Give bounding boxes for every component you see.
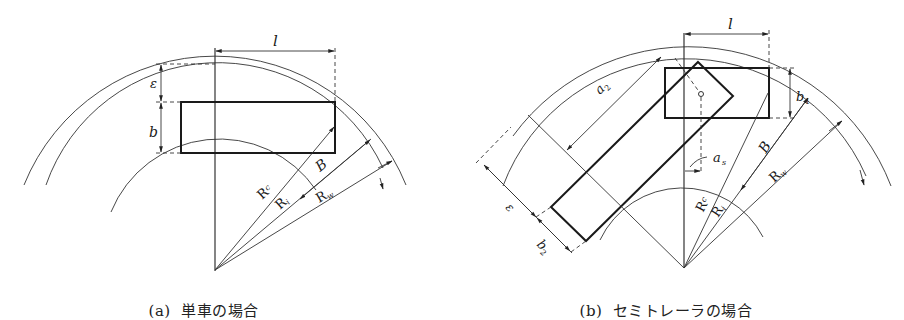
label-l: l — [728, 15, 733, 33]
rotation-arrow — [380, 178, 383, 189]
caption-b-text: セミトレーラの場合 — [613, 302, 753, 320]
radius-rc — [684, 93, 768, 268]
ext-b2-top — [536, 207, 551, 217]
label-l: l — [273, 32, 278, 50]
label-eps: ε — [503, 200, 517, 214]
dim-a2 — [567, 57, 661, 150]
label-as: a — [713, 150, 721, 165]
label-b1: b — [796, 89, 804, 104]
label-B: B — [754, 138, 774, 156]
panel-b-semitrailer: l b 1 a 2 a s ε b 2 B R c R i R w — [476, 15, 891, 268]
label-b1-sub: 1 — [805, 97, 810, 106]
panel-a-single-vehicle: l ε b B R c R i R w — [24, 32, 406, 271]
leader-as — [690, 157, 707, 167]
label-eps: ε — [150, 76, 157, 91]
turning-geometry-diagram: l ε b B R c R i R w — [0, 0, 904, 320]
trailer-axle-line — [528, 115, 684, 268]
label-b: b — [149, 124, 158, 140]
kingpin — [699, 92, 704, 97]
caption-a: (a) 単車の場合 — [138, 281, 259, 320]
inner-arc — [600, 188, 763, 240]
ext-eps-top — [476, 127, 511, 163]
caption-b: (b) セミトレーラの場合 — [569, 281, 752, 320]
rotation-arrow — [860, 170, 864, 185]
ext-b2-bot — [571, 241, 586, 252]
caption-a-text: 単車の場合 — [181, 302, 259, 320]
caption-b-prefix: (b) — [580, 302, 603, 320]
caption-a-prefix: (a) — [149, 302, 171, 320]
label-B: B — [311, 155, 330, 175]
label-as-sub: s — [722, 158, 726, 167]
radius-rw — [215, 161, 392, 270]
